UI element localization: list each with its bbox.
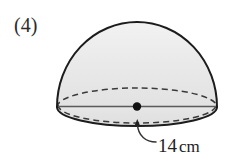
dimension-label: 14cm — [158, 136, 200, 155]
dimension-value: 14 — [158, 135, 177, 156]
center-point-dot — [133, 102, 141, 110]
item-number-label: (4) — [14, 15, 37, 35]
figure-page: (4) 14cm — [0, 0, 237, 167]
dome-cap-fill — [57, 22, 217, 107]
dimension-unit: cm — [179, 137, 200, 156]
